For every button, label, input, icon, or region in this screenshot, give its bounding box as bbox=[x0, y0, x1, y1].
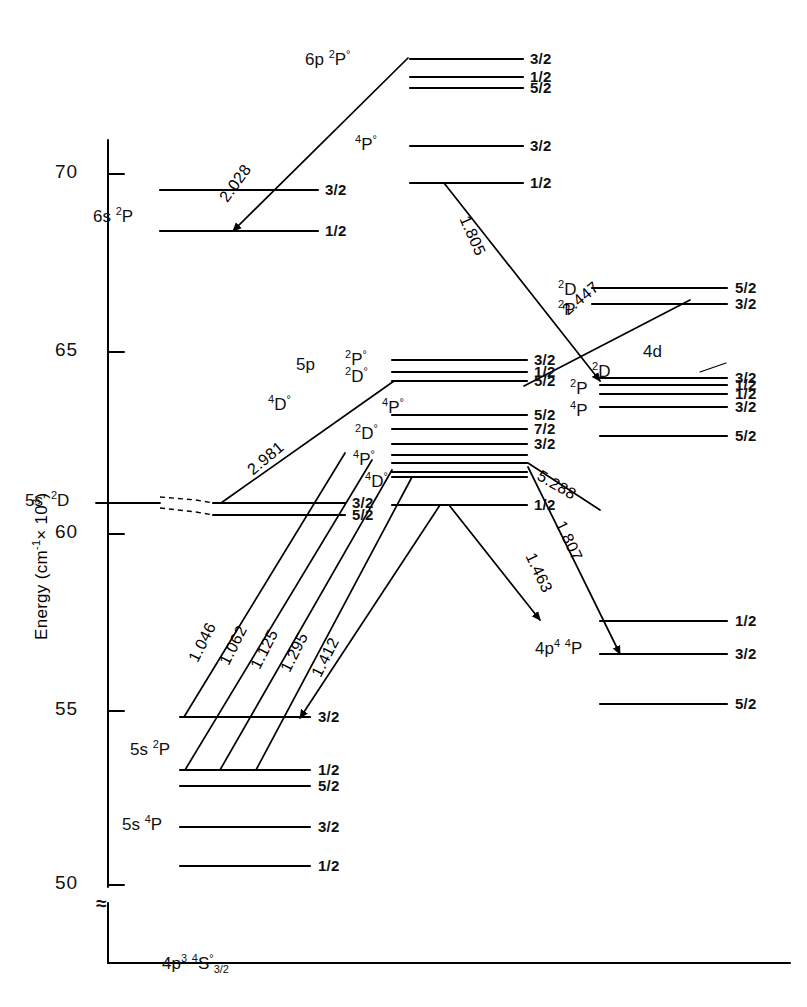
level-j-label: 5/2 bbox=[735, 695, 756, 712]
config-label-6p-2Po: 6p 2P° bbox=[305, 48, 351, 70]
axis-tick-65: 65 bbox=[55, 339, 78, 361]
level-j-label: 1/2 bbox=[735, 612, 756, 629]
level-j-label: 1/2 bbox=[318, 761, 339, 778]
level-j-label: 3/2 bbox=[318, 708, 339, 725]
config-label-4Po-5p: 4P° bbox=[382, 396, 404, 418]
config-label-6s-2P: 6s 2P bbox=[93, 205, 133, 227]
config-label-4Po-low: 4P° bbox=[353, 448, 375, 470]
config-label-4Po-top: 4P° bbox=[355, 133, 377, 155]
axis-tick-50: 50 bbox=[55, 872, 78, 894]
config-label-5s-2P: 5s 2P bbox=[130, 738, 170, 760]
level-j-label: 1/2 bbox=[318, 857, 339, 874]
level-j-label: 5/2 bbox=[352, 506, 373, 523]
axis-break-icon: ≈ bbox=[96, 893, 106, 915]
config-label-2P-4d: 2P bbox=[570, 377, 587, 399]
level-j-label: 3/2 bbox=[735, 398, 756, 415]
config-label-4p4-4P: 4p4 4P bbox=[535, 637, 582, 659]
axis-tick-60: 60 bbox=[55, 521, 78, 543]
axis-title: Energy (cm-1× 103) bbox=[30, 493, 52, 640]
config-label-4Do: 4D° bbox=[268, 393, 291, 415]
config-label-2Do-5p: 2D° bbox=[355, 422, 378, 444]
level-j-label: 5/2 bbox=[318, 777, 339, 794]
level-j-label: 1/2 bbox=[325, 222, 346, 239]
level-j-label: 3/2 bbox=[534, 435, 555, 452]
axis-tick-70: 70 bbox=[55, 161, 78, 183]
level-lines bbox=[96, 59, 790, 963]
config-label-5p: 5p bbox=[296, 355, 315, 375]
energy-level-diagram: Energy (cm-1× 103) 7065605550 3/21/25/23… bbox=[0, 0, 807, 1007]
level-j-label: 3/2 bbox=[530, 137, 551, 154]
diagram-canvas bbox=[0, 0, 807, 1007]
level-j-label: 5/2 bbox=[530, 79, 551, 96]
level-j-label: 3/2 bbox=[735, 645, 756, 662]
config-label-5s-4P: 5s 4P bbox=[122, 813, 162, 835]
level-j-label: 3/2 bbox=[735, 295, 756, 312]
level-j-label: 3/2 bbox=[530, 50, 551, 67]
axis-tick-55: 55 bbox=[55, 698, 78, 720]
config-label-5p-2Do: 2D° bbox=[345, 365, 368, 387]
energy-axis bbox=[108, 140, 248, 963]
config-label-4Do-low: 4D° bbox=[365, 470, 388, 492]
level-j-label: 3/2 bbox=[318, 818, 339, 835]
level-j-label: 1/2 bbox=[534, 496, 555, 513]
config-label-5s-prime-2D: 5s′ 2D bbox=[25, 489, 69, 511]
level-j-label: 5/2 bbox=[735, 427, 756, 444]
config-label-ground: 4p3 4S°3/2 bbox=[162, 952, 229, 975]
level-j-label: 3/2 bbox=[325, 181, 346, 198]
level-j-label: 5/2 bbox=[534, 372, 555, 389]
level-j-label: 1/2 bbox=[530, 174, 551, 191]
config-label-2D-4d: 2D bbox=[592, 360, 610, 382]
config-label-4d: 4d bbox=[643, 342, 662, 362]
level-j-label: 5/2 bbox=[735, 279, 756, 296]
config-label-4P-4d: 4P bbox=[570, 399, 587, 421]
